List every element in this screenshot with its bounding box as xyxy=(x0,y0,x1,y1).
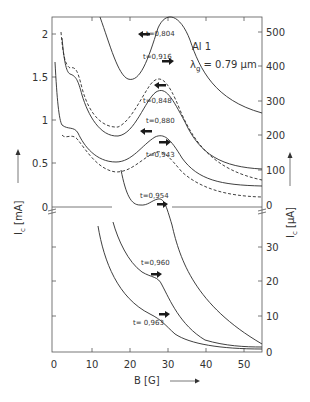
label-t-0943: t=0,943 xyxy=(146,151,175,159)
label-t-0963: t= 0,963 xyxy=(133,319,164,327)
label-t-0960: t=0,960 xyxy=(141,259,170,267)
label-t-0954: t=0,954 xyxy=(140,192,169,200)
svg-text:B [G]: B [G] xyxy=(134,375,160,386)
x-tick-10: 10 xyxy=(86,359,99,370)
arrow-left-icon xyxy=(154,82,166,89)
x-tick-0: 0 xyxy=(51,359,57,370)
right-lower-tick-20: 20 xyxy=(266,276,279,287)
curve-t-0963 xyxy=(98,226,262,349)
right-tick-100: 100 xyxy=(266,165,285,176)
right-tick-300: 300 xyxy=(266,96,285,107)
bottom-ticks xyxy=(92,348,244,352)
x-tick-20: 20 xyxy=(124,359,137,370)
right-ticks xyxy=(258,32,262,316)
x-tick-50: 50 xyxy=(238,359,251,370)
arrow-right-icon xyxy=(159,311,170,318)
direction-arrows xyxy=(138,31,174,318)
chart-title: Al 1 xyxy=(192,41,211,52)
right-y-axis-label: Ic [μA] xyxy=(285,152,299,238)
label-t-0848: t=0,848 xyxy=(143,97,172,105)
left-tick-0-5: 0.5 xyxy=(32,158,48,169)
right-tick-400: 400 xyxy=(266,61,285,72)
arrow-left-icon xyxy=(140,128,152,135)
right-tick-0: 0 xyxy=(266,200,272,211)
left-tick-1: 1 xyxy=(42,115,48,126)
label-t-0804: t=0,804 xyxy=(146,30,175,38)
x-tick-30: 30 xyxy=(162,359,175,370)
left-tick-0: 0 xyxy=(42,202,48,213)
x-tick-labels: 0 10 20 30 40 50 xyxy=(51,359,251,370)
right-lower-tick-30: 30 xyxy=(266,242,279,253)
svg-text:Ic [μA]: Ic [μA] xyxy=(285,207,299,238)
left-tick-2: 2 xyxy=(42,29,48,40)
right-tick-500: 500 xyxy=(266,27,285,38)
curve-t-0943 xyxy=(62,135,262,197)
curve-t-0960 xyxy=(113,222,262,347)
right-upper-tick-labels: 0 100 200 300 400 500 xyxy=(266,27,285,211)
chart-figure: 0 10 20 30 40 50 0 0.5 1 1.5 2 0 100 200… xyxy=(0,0,310,402)
right-lower-tick-0: 0 xyxy=(266,347,272,358)
right-tick-200: 200 xyxy=(266,130,285,141)
label-t-0916: t=0,916 xyxy=(143,53,172,61)
left-tick-1-5: 1.5 xyxy=(32,72,48,83)
left-y-axis-label: Ic [mA] xyxy=(13,149,27,235)
svg-text:Ic [mA]: Ic [mA] xyxy=(13,201,27,235)
right-lower-tick-labels: 0 10 20 30 xyxy=(266,242,279,358)
x-axis-label: B [G] xyxy=(134,375,200,386)
top-ticks xyxy=(92,17,244,21)
chart-subtitle: λg = 0.79 μm xyxy=(190,59,257,73)
label-t-0880: t=0,880 xyxy=(146,117,175,125)
axis-break-marks xyxy=(48,209,266,214)
chart-svg: 0 10 20 30 40 50 0 0.5 1 1.5 2 0 100 200… xyxy=(0,0,310,402)
left-tick-labels: 0 0.5 1 1.5 2 xyxy=(32,29,48,213)
right-lower-tick-10: 10 xyxy=(266,311,279,322)
x-tick-40: 40 xyxy=(200,359,213,370)
